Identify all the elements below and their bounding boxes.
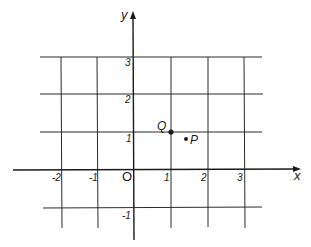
coordinate-plane: y x O -2 -1 1 2 3 3 2 1 -1 Q P xyxy=(0,0,311,247)
x-tick-label: -2 xyxy=(52,172,61,183)
point-p-label: P xyxy=(190,133,198,147)
x-tick-label: -1 xyxy=(89,172,98,183)
y-tick-label: -1 xyxy=(122,210,131,221)
y-tick-label: 1 xyxy=(126,133,132,144)
y-axis-arrow-icon xyxy=(130,11,136,19)
y-axis xyxy=(130,11,136,240)
point-q-label: Q xyxy=(157,119,166,133)
vertical-grid-lines xyxy=(61,57,245,228)
grid-line-y-neg1 xyxy=(43,207,262,208)
grid-line-x3 xyxy=(244,57,245,228)
point-p: P xyxy=(184,133,198,147)
grid-line-x-neg1 xyxy=(97,57,98,228)
y-tick-label: 3 xyxy=(125,57,131,68)
point-p-dot-icon xyxy=(184,137,188,141)
x-tick-label: 3 xyxy=(237,172,243,183)
y-axis-label: y xyxy=(120,7,129,22)
x-tick-label: 1 xyxy=(164,172,170,183)
point-q-dot-icon xyxy=(168,129,173,134)
grid-line-x-neg2 xyxy=(61,57,62,228)
x-axis-label: x xyxy=(293,168,301,183)
x-tick-label: 2 xyxy=(200,172,207,183)
origin-label: O xyxy=(122,169,132,184)
y-tick-label: 2 xyxy=(124,94,131,105)
coordinate-diagram: y x O -2 -1 1 2 3 3 2 1 -1 Q P xyxy=(0,0,311,247)
horizontal-grid-lines xyxy=(40,57,263,208)
